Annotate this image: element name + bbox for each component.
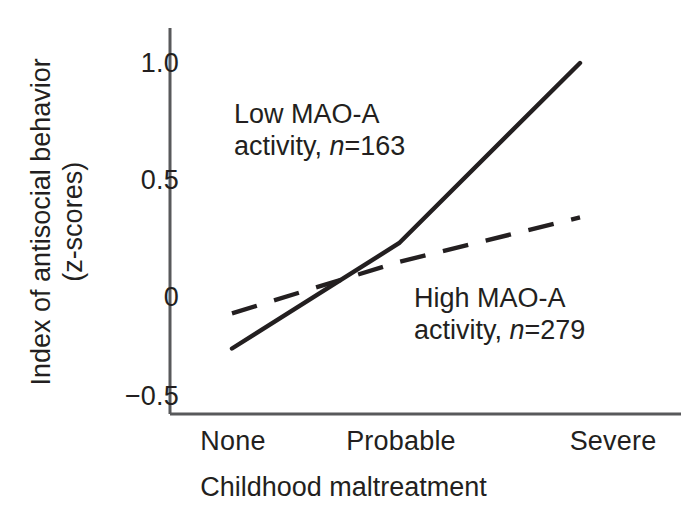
series-annotation-low-line1: Low MAO-A (234, 98, 405, 130)
x-axis-title: Childhood maltreatment (0, 472, 687, 503)
y-tick-label-0.5: 0.5 (141, 167, 179, 194)
y-tick-label-0: 0 (164, 284, 179, 311)
series-annotation-high-prefix: activity, (414, 315, 510, 345)
series-annotation-high-mao-a: High MAO-A activity, n=279 (414, 282, 585, 347)
series-annotation-low-suffix: =163 (345, 131, 406, 161)
series-annotation-low-mao-a: Low MAO-A activity, n=163 (234, 98, 405, 163)
x-tick-label-none: None (200, 428, 265, 455)
series-annotation-low-n-italic: n (330, 131, 345, 161)
series-annotation-low-line2: activity, n=163 (234, 130, 405, 162)
series-annotation-high-n-italic: n (510, 315, 525, 345)
x-tick-label-severe: Severe (570, 428, 657, 455)
series-annotation-high-line1: High MAO-A (414, 282, 585, 314)
x-tick-label-probable: Probable (346, 428, 456, 455)
chart-figure: 1.0 0.5 0 −0.5 None Probable Severe Inde… (0, 0, 687, 520)
y-tick-label-1.0: 1.0 (141, 50, 179, 77)
series-annotation-low-prefix: activity, (234, 131, 330, 161)
series-annotation-high-suffix: =279 (525, 315, 586, 345)
series-annotation-high-line2: activity, n=279 (414, 314, 585, 346)
y-tick-label-neg0.5: −0.5 (125, 383, 179, 410)
